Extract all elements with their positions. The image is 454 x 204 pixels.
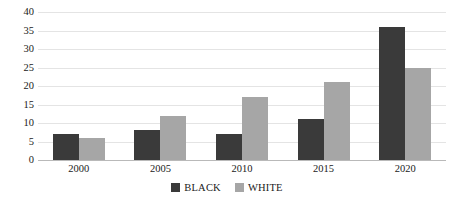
y-tick-label: 0 <box>4 155 34 166</box>
legend-swatch-black-icon <box>171 183 180 192</box>
bar-white-2000[interactable] <box>79 138 105 160</box>
chart-legend: BLACK WHITE <box>0 182 454 193</box>
x-axis: 20002005201020152020 <box>38 163 446 179</box>
bar-white-2005[interactable] <box>160 116 186 160</box>
bar-black-2005[interactable] <box>134 130 160 160</box>
y-tick-label: 15 <box>4 100 34 111</box>
bar-group <box>120 12 202 160</box>
legend-label-white: WHITE <box>248 182 283 193</box>
bar-chart: 0510152025303540 20002005201020152020 BL… <box>0 0 454 204</box>
legend-label-black: BLACK <box>184 182 221 193</box>
bar-black-2000[interactable] <box>53 134 79 160</box>
bar-group <box>283 12 365 160</box>
y-tick-label: 35 <box>4 26 34 37</box>
bars-layer <box>38 12 446 160</box>
y-tick-label: 25 <box>4 63 34 74</box>
legend-item-white[interactable]: WHITE <box>235 182 283 193</box>
bar-group <box>364 12 446 160</box>
bar-white-2020[interactable] <box>405 68 431 161</box>
bar-white-2010[interactable] <box>242 97 268 160</box>
x-tick-label-2005: 2005 <box>120 163 202 175</box>
x-tick-label-2015: 2015 <box>283 163 365 175</box>
y-tick-label: 5 <box>4 137 34 148</box>
y-tick-label: 30 <box>4 44 34 55</box>
legend-item-black[interactable]: BLACK <box>171 182 221 193</box>
x-axis-line <box>38 160 446 161</box>
bar-white-2015[interactable] <box>324 82 350 160</box>
x-tick-label-2020: 2020 <box>364 163 446 175</box>
bar-black-2010[interactable] <box>216 134 242 160</box>
y-tick-label: 40 <box>4 7 34 18</box>
y-tick-label: 10 <box>4 118 34 129</box>
bar-black-2015[interactable] <box>298 119 324 160</box>
x-tick-label-2000: 2000 <box>38 163 120 175</box>
legend-swatch-white-icon <box>235 183 244 192</box>
y-tick-label: 20 <box>4 81 34 92</box>
bar-black-2020[interactable] <box>379 27 405 160</box>
x-tick-label-2010: 2010 <box>201 163 283 175</box>
bar-group <box>38 12 120 160</box>
y-axis: 0510152025303540 <box>0 12 34 160</box>
bar-group <box>201 12 283 160</box>
